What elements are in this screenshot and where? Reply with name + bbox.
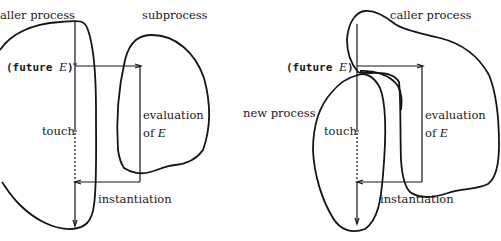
left-of-e-label: of E (143, 126, 166, 140)
right-of-var: E (440, 125, 448, 140)
right-of-text: of (425, 126, 440, 140)
right-caller-process-label: caller process (390, 10, 471, 22)
left-evaluation-label: evaluation (143, 110, 204, 122)
right-instantiation-label: instantiation (380, 194, 454, 206)
right-future-call-label: (future E) (286, 60, 354, 74)
left-of-var: E (158, 125, 166, 140)
right-future-var: E (339, 59, 347, 74)
left-caller-process-label: aller process (0, 10, 75, 22)
left-subprocess-label: subprocess (142, 10, 208, 22)
right-new-process-outline (313, 74, 385, 231)
right-evaluation-label: evaluation (425, 110, 486, 122)
right-touch-label: touch (324, 126, 357, 138)
left-future-prefix: (future (6, 61, 59, 74)
left-instantiation-label: instantiation (98, 194, 172, 206)
right-future-prefix: (future (286, 61, 339, 74)
left-future-var: E (59, 59, 67, 74)
left-future-suffix: ) (67, 61, 74, 74)
right-new-process-label: new process (243, 108, 316, 120)
left-touch-label: touch (42, 126, 75, 138)
left-future-call-label: (future E) (6, 60, 74, 74)
right-future-suffix: ) (347, 61, 354, 74)
left-subprocess-outline (117, 35, 209, 173)
right-of-e-label: of E (425, 126, 448, 140)
left-of-text: of (143, 126, 158, 140)
right-caller-process-outline (347, 11, 499, 197)
